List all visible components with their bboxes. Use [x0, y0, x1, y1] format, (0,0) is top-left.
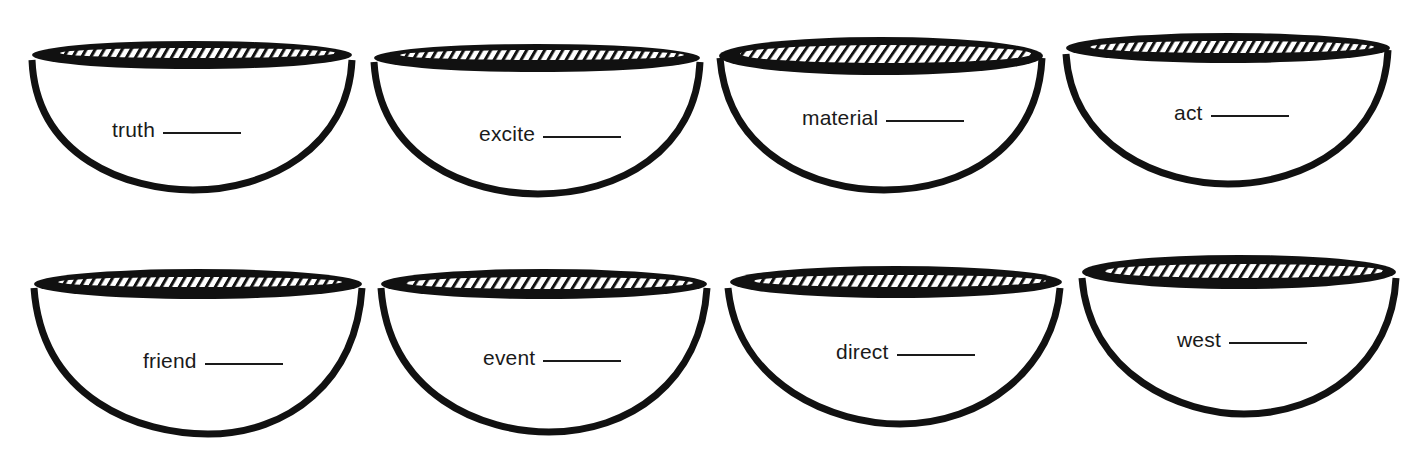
- word-label: event: [483, 346, 535, 370]
- bowl-event: event: [377, 262, 711, 436]
- word-label: friend: [143, 349, 197, 373]
- answer-blank[interactable]: [543, 136, 621, 138]
- bowl-material: material: [716, 32, 1050, 194]
- answer-blank[interactable]: [205, 363, 283, 365]
- word-label: act: [1174, 101, 1203, 125]
- word-label: excite: [479, 122, 535, 146]
- bowl-west: west: [1078, 246, 1400, 418]
- word-label: material: [802, 106, 878, 130]
- bowl-act: act: [1062, 28, 1392, 188]
- answer-blank[interactable]: [1229, 342, 1307, 344]
- bowl-direct: direct: [724, 258, 1064, 428]
- word-label: west: [1177, 328, 1221, 352]
- answer-blank[interactable]: [886, 120, 964, 122]
- word-label: truth: [112, 118, 155, 142]
- bowl-drawing-icon: [28, 38, 356, 194]
- bowl-friend: friend: [30, 262, 366, 440]
- answer-blank[interactable]: [1211, 115, 1289, 117]
- answer-blank[interactable]: [163, 132, 241, 134]
- answer-blank[interactable]: [543, 360, 621, 362]
- bowl-truth: truth: [28, 38, 356, 194]
- answer-blank[interactable]: [897, 354, 975, 356]
- word-label: direct: [836, 340, 889, 364]
- bowl-drawing-icon: [370, 38, 704, 198]
- bowl-excite: excite: [370, 38, 704, 198]
